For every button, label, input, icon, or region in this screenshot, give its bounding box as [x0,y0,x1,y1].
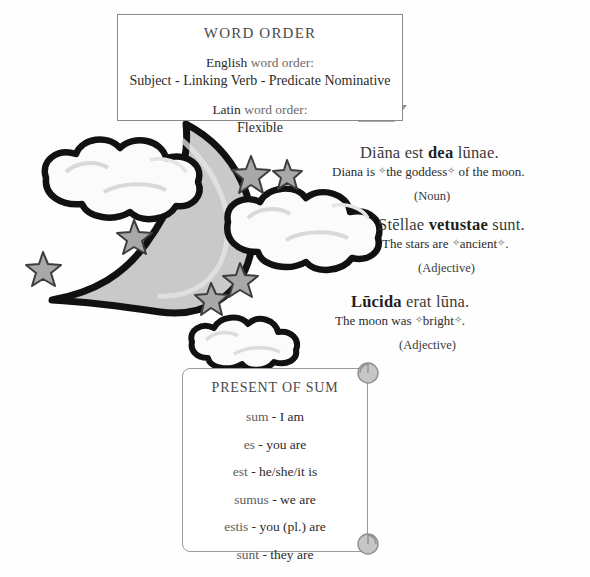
verb-meaning: he/she/it is [259,464,317,479]
cloud-bottom-icon [191,318,297,370]
latin-label-suffix: word order: [241,102,308,117]
latin-pre: Diāna est [360,143,428,162]
latin-post: erat lūna. [402,292,470,311]
english-keyword: bright [423,313,454,328]
cloud-left-icon [45,139,200,219]
example-sentence-adjective-2: Lūcida erat lūna. The moon was ✧bright✧.… [335,292,469,353]
english-post: . [505,236,508,251]
word-order-title: WORD ORDER [118,25,402,42]
latin-post: lūnae. [453,143,498,162]
english-keyword: ancient [460,236,498,251]
part-of-speech-label: (Noun) [414,189,525,204]
verb-form: est [233,464,248,479]
english-label-suffix: word order: [247,55,314,70]
list-item: estis - you (pl.) are [183,520,367,534]
verb-meaning: you (pl.) are [259,519,325,534]
scroll-curl-top-right-icon [354,360,382,386]
mark-close-icon: ✧ [454,314,462,325]
word-order-callout: WORD ORDER English word order: Subject -… [117,14,403,121]
latin-post: sunt. [488,215,525,234]
latin-word-order-label: Latin word order: [118,101,402,119]
verb-separator: - [255,437,266,452]
verb-separator: - [248,464,259,479]
latin-sentence: Lūcida erat lūna. [351,292,469,312]
latin-pre: Stēllae [378,215,429,234]
latin-sentence: Diāna est dea lūnae. [360,143,525,163]
page-canvas: WORD ORDER English word order: Subject -… [0,0,590,577]
list-item: sunt - they are [183,548,367,562]
verb-separator: - [268,409,279,424]
latin-word-order-value: Flexible [118,119,402,137]
latin-keyword: dea [428,143,453,162]
part-of-speech-label: (Adjective) [399,338,469,353]
verb-separator: - [259,547,270,562]
list-item: sum - I am [183,410,367,424]
verb-separator: - [269,492,280,507]
verb-meaning: they are [270,547,313,562]
example-sentence-noun: Diāna est dea lūnae. Diana is ✧the godde… [332,143,525,204]
english-post: of the moon. [455,164,524,179]
conjugation-list: sum - I am es - you are est - he/she/it … [183,410,367,561]
verb-meaning: you are [266,437,306,452]
english-pre: The stars are [382,236,452,251]
english-pre: Diana is [332,164,378,179]
part-of-speech-label: (Adjective) [418,261,525,276]
list-item: est - he/she/it is [183,465,367,479]
verb-form: es [244,437,255,452]
latin-label-text: Latin [212,102,241,117]
crescent-moon-icon [52,124,253,313]
list-item: es - you are [183,438,367,452]
latin-sentence: Stēllae vetustae sunt. [378,215,525,235]
star-icon [26,156,302,315]
latin-keyword: vetustae [429,215,488,234]
latin-keyword: Lūcida [351,292,402,311]
mark-open-icon: ✧ [452,237,460,248]
verb-form: sunt [237,547,260,562]
verb-meaning: I am [280,409,304,424]
verb-separator: - [248,519,259,534]
english-post: . [462,313,465,328]
english-word-order-value: Subject - Linking Verb - Predicate Nomin… [118,72,402,90]
list-item: sumus - we are [183,493,367,507]
scroll-title: PRESENT OF SUM [183,380,367,396]
scroll-curl-bottom-right-icon [354,531,382,557]
english-keyword: the goddess [386,164,447,179]
english-translation: Diana is ✧the goddess✧ of the moon. [332,164,525,180]
verb-form: estis [224,519,248,534]
verb-form: sumus [234,492,269,507]
verb-meaning: we are [280,492,316,507]
english-translation: The stars are ✧ancient✧. [382,236,525,252]
english-translation: The moon was ✧bright✧. [335,313,469,329]
english-word-order-label: English word order: [118,54,402,72]
english-pre: The moon was [335,313,415,328]
mark-open-icon: ✧ [415,314,423,325]
present-of-sum-scroll: PRESENT OF SUM sum - I am es - you are e… [182,368,368,552]
verb-form: sum [246,409,269,424]
example-sentence-adjective-1: Stēllae vetustae sunt. The stars are ✧an… [360,215,525,276]
english-label-text: English [206,55,247,70]
